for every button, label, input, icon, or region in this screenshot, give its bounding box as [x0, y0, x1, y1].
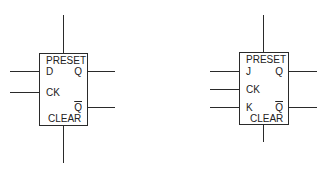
qbar-label: Q	[275, 103, 283, 113]
d-input-line	[10, 71, 39, 72]
q-label: Q	[74, 67, 82, 77]
ck-input-line	[10, 92, 39, 93]
q-output-line	[288, 71, 317, 72]
preset-label: PRESET	[46, 56, 86, 66]
q-label: Q	[275, 67, 283, 77]
clear-label: CLEAR	[48, 114, 81, 124]
j-input-line	[210, 71, 239, 72]
preset-line	[263, 15, 264, 52]
j-label: J	[246, 67, 251, 77]
ck-input-line	[210, 89, 239, 90]
d-flip-flop-box: PRESET D CK Q Q CLEAR	[39, 53, 88, 126]
jk-flip-flop-box: PRESET J CK K Q Q CLEAR	[239, 52, 289, 125]
q-output-line	[87, 71, 115, 72]
ck-label: CK	[46, 88, 60, 98]
clear-line	[263, 124, 264, 142]
k-label: K	[246, 103, 253, 113]
ck-label: CK	[246, 85, 260, 95]
clear-line	[63, 125, 64, 163]
k-input-line	[210, 107, 239, 108]
qbar-label: Q	[74, 103, 82, 113]
qbar-output-line	[288, 107, 317, 108]
preset-label: PRESET	[246, 55, 286, 65]
preset-line	[63, 15, 64, 53]
d-label: D	[46, 67, 53, 77]
clear-label: CLEAR	[250, 114, 283, 124]
qbar-output-line	[87, 107, 115, 108]
